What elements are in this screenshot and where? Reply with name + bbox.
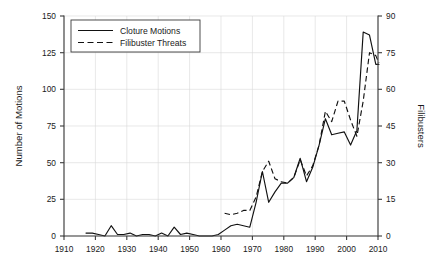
y2-axis-title: Filibusters bbox=[416, 104, 427, 148]
y-tick-label: 150 bbox=[42, 11, 56, 21]
x-tick-label: 1960 bbox=[212, 244, 231, 254]
x-tick-label: 1950 bbox=[180, 244, 199, 254]
x-tick-label: 1910 bbox=[55, 244, 74, 254]
y-axis-left: 0 25 50 75 100 125 150 Number of Motions bbox=[13, 11, 64, 241]
y2-tick-label: 60 bbox=[386, 84, 396, 94]
x-tick-label: 1980 bbox=[274, 244, 293, 254]
chart-legend: Cloture Motions Filibuster Threats bbox=[71, 20, 200, 52]
y-axis-right: 0 15 30 45 60 75 90 Filibusters bbox=[378, 11, 427, 241]
x-axis: 1910 1920 1930 1940 1950 1960 1970 1980 … bbox=[55, 236, 388, 254]
chart-figure: 0 25 50 75 100 125 150 Number of Motions… bbox=[0, 0, 430, 269]
series-cloture-motions bbox=[86, 32, 379, 236]
chart-canvas: 0 25 50 75 100 125 150 Number of Motions… bbox=[0, 0, 430, 269]
x-tick-label: 1990 bbox=[306, 244, 325, 254]
y-tick-label: 125 bbox=[42, 48, 56, 58]
x-tick-label: 2010 bbox=[369, 244, 388, 254]
x-tick-label: 2000 bbox=[337, 244, 356, 254]
legend-item-label: Cloture Motions bbox=[120, 26, 180, 36]
y2-tick-label: 15 bbox=[386, 194, 396, 204]
y2-tick-label: 0 bbox=[386, 231, 391, 241]
legend-item-label: Filibuster Threats bbox=[120, 38, 186, 48]
y2-tick-label: 30 bbox=[386, 158, 396, 168]
filibuster-threats-line bbox=[225, 53, 379, 215]
y-tick-label: 0 bbox=[51, 231, 56, 241]
y-tick-label: 25 bbox=[47, 194, 57, 204]
y-tick-label: 100 bbox=[42, 84, 56, 94]
y2-tick-label: 90 bbox=[386, 11, 396, 21]
series-filibuster-threats bbox=[225, 53, 379, 215]
x-tick-label: 1920 bbox=[86, 244, 105, 254]
x-tick-label: 1970 bbox=[243, 244, 262, 254]
y-tick-label: 50 bbox=[47, 158, 57, 168]
cloture-motions-line bbox=[86, 32, 379, 236]
y-tick-label: 75 bbox=[47, 121, 57, 131]
y2-tick-label: 75 bbox=[386, 48, 396, 58]
y-axis-title: Number of Motions bbox=[13, 85, 24, 166]
x-tick-label: 1940 bbox=[149, 244, 168, 254]
x-tick-label: 1930 bbox=[117, 244, 136, 254]
y2-tick-label: 45 bbox=[386, 121, 396, 131]
